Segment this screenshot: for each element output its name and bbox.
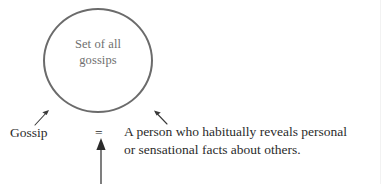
set-label-line-2: gossips (43, 52, 153, 68)
definition-line-2: or sensational facts about others. (124, 141, 376, 159)
definition-line-1: A person who habitually reveals personal (124, 123, 376, 141)
diagram-canvas: Set of all gossips Gossip = A person who… (0, 0, 381, 184)
set-label-line-1: Set of all (43, 36, 153, 52)
equals-sign: = (95, 124, 103, 141)
definition-text: A person who habitually reveals personal… (124, 123, 376, 159)
arrow-pointing-up-to-equals-icon (92, 136, 110, 184)
set-of-all-gossips-label: Set of all gossips (43, 36, 153, 68)
term-label: Gossip (10, 124, 48, 141)
